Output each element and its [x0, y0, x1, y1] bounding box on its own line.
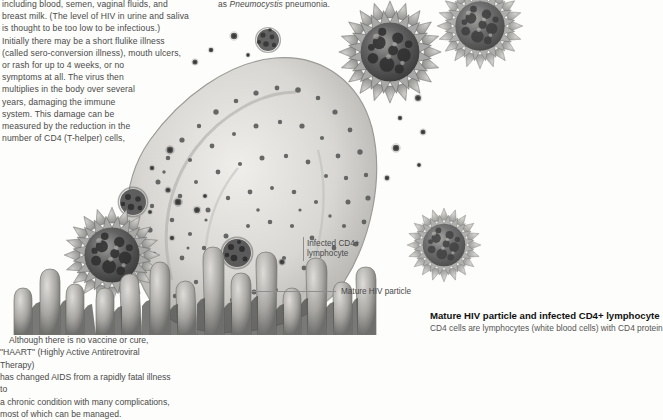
left-text-column: including blood, semen, vaginal fluids, …	[2, 0, 190, 144]
right-paragraph-3: Those with HIV can be regularly monitore…	[0, 120, 172, 329]
middle-note-italic-term: Pneumocystis	[229, 0, 282, 9]
leader-line-infected-cell	[303, 237, 304, 261]
middle-note-suffix: pneumonia.	[283, 0, 330, 9]
right-paragraph-4: Although there is no vaccine or cure, "H…	[0, 334, 172, 420]
leader-line-mature-particle	[252, 291, 336, 292]
callout-mature-hiv-particle: Mature HIV particle	[341, 287, 436, 297]
callout-infected-cd4-lymphocyte: Infected CD4+ lymphocyte	[307, 239, 397, 260]
middle-note-prefix: as	[218, 0, 229, 9]
middle-note: as Pneumocystis pneumonia.	[218, 0, 378, 10]
figure-caption: Mature HIV particle and infected CD4+ ly…	[430, 310, 605, 334]
figure-caption-subtitle: CD4 cells are lymphocytes (white blood c…	[430, 323, 605, 334]
figure-caption-title: Mature HIV particle and infected CD4+ ly…	[430, 310, 605, 322]
